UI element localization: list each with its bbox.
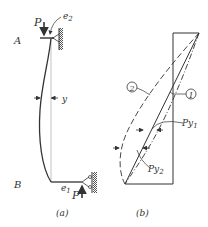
moment-py1-label: Py1 bbox=[181, 118, 198, 130]
curve-1-label: 1 bbox=[188, 91, 193, 100]
label-a: A bbox=[13, 35, 21, 46]
figure-a: P e2 A y e1 P B (a) bbox=[13, 11, 97, 218]
figure-b: 1 2 Py1 Py2 (b) bbox=[113, 33, 199, 218]
bottom-load-label: P bbox=[71, 189, 80, 202]
deflection-y-label: y bbox=[61, 94, 68, 104]
curve-2 bbox=[120, 33, 199, 184]
label-b: B bbox=[13, 179, 21, 190]
deflected-column bbox=[39, 38, 51, 182]
top-load-label: P bbox=[33, 16, 42, 29]
top-wall bbox=[59, 28, 63, 50]
linear-moment-line bbox=[125, 33, 199, 184]
moment-py2-label: Py2 bbox=[147, 164, 164, 176]
caption-a: (a) bbox=[56, 208, 69, 218]
bottom-roller-support bbox=[82, 177, 89, 187]
column-diagram: P e2 A y e1 P B (a) bbox=[0, 0, 208, 227]
bottom-wall bbox=[93, 172, 97, 193]
curve-2-label: 2 bbox=[128, 84, 134, 93]
e2-label: e2 bbox=[63, 11, 73, 23]
e1-label: e1 bbox=[61, 183, 71, 195]
caption-b: (b) bbox=[136, 208, 149, 218]
